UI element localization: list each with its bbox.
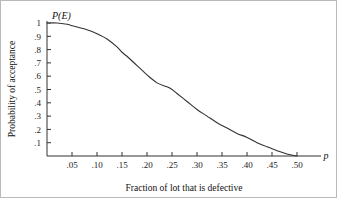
x-tick-label: .30 [191,160,203,170]
y-tick-label: .4 [34,98,41,108]
x-axis-symbol-label: p [323,150,329,161]
y-tick-label: .2 [34,125,41,135]
y-tick-label: .1 [34,138,41,148]
y-tick-label: .6 [34,71,41,81]
y-axis-symbol-label: P(E) [51,10,72,22]
y-tick-label: .7 [34,58,41,68]
y-axis-ticks: .1.2.3.4.5.6.7.8.91 [34,18,51,148]
figure-container: .1.2.3.4.5.6.7.8.91 .05.10.15.20.25.30.3… [0,0,337,198]
oc-curve-chart: .1.2.3.4.5.6.7.8.91 .05.10.15.20.25.30.3… [1,1,337,198]
y-tick-label: 1 [37,18,42,28]
probability-of-acceptance-curve [47,23,297,156]
x-tick-label: .05 [66,160,78,170]
x-tick-label: .35 [216,160,228,170]
x-tick-label: .10 [91,160,103,170]
x-tick-label: .25 [166,160,178,170]
x-tick-label: .15 [116,160,128,170]
y-axis-title: Probability of acceptance [7,41,17,138]
y-tick-label: .9 [34,32,41,42]
x-tick-label: .20 [141,160,153,170]
x-tick-label: .45 [266,160,278,170]
y-tick-label: .3 [34,111,41,121]
x-tick-label: .40 [241,160,253,170]
x-axis-ticks: .05.10.15.20.25.30.35.40.45.50 [66,152,303,170]
y-tick-label: .5 [34,85,41,95]
y-tick-label: .8 [34,45,41,55]
x-axis-title: Fraction of lot that is defective [126,183,243,193]
x-tick-label: .50 [291,160,303,170]
